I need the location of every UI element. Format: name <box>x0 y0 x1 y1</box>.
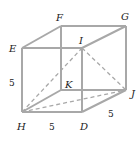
length-HE: 5 <box>9 78 15 88</box>
diagonal-HI <box>22 48 82 112</box>
label-I: I <box>78 35 84 46</box>
cube-edges <box>22 26 126 112</box>
edge-EF <box>22 26 61 48</box>
length-HD: 5 <box>49 122 55 132</box>
cube-diagram: F G E I K J H D 5 5 5 <box>0 0 140 144</box>
edge-KH <box>22 90 61 112</box>
label-K: K <box>64 79 73 90</box>
label-J: J <box>129 88 136 99</box>
vertex-labels: F G E I K J H D <box>8 11 136 132</box>
label-G: G <box>121 11 129 22</box>
edge-DJ <box>82 90 126 112</box>
label-D: D <box>79 121 88 132</box>
diagonal-IJ <box>82 48 126 90</box>
label-H: H <box>16 121 26 132</box>
label-F: F <box>55 12 64 23</box>
length-DJ: 5 <box>108 109 114 119</box>
label-E: E <box>8 43 17 54</box>
edge-GI <box>82 26 126 48</box>
